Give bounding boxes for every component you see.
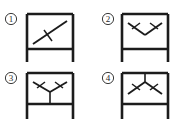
panel-2: 2 bbox=[102, 13, 168, 62]
figure-root: 1234 bbox=[0, 0, 184, 125]
panels-layer: 1234 bbox=[5, 13, 168, 119]
panel-1: 1 bbox=[5, 13, 73, 62]
brace-member-1 bbox=[33, 21, 67, 44]
brace-member-1 bbox=[33, 82, 50, 92]
panel-4: 4 bbox=[102, 72, 168, 119]
panel-label-text: 4 bbox=[106, 73, 111, 83]
panel-3: 3 bbox=[5, 72, 73, 119]
panel-label-text: 1 bbox=[9, 14, 14, 24]
brace-member-2 bbox=[50, 82, 67, 92]
panel-label-text: 2 bbox=[106, 14, 111, 24]
braced-frame-diagram: 1234 bbox=[0, 0, 184, 125]
panel-label-text: 3 bbox=[9, 73, 14, 83]
